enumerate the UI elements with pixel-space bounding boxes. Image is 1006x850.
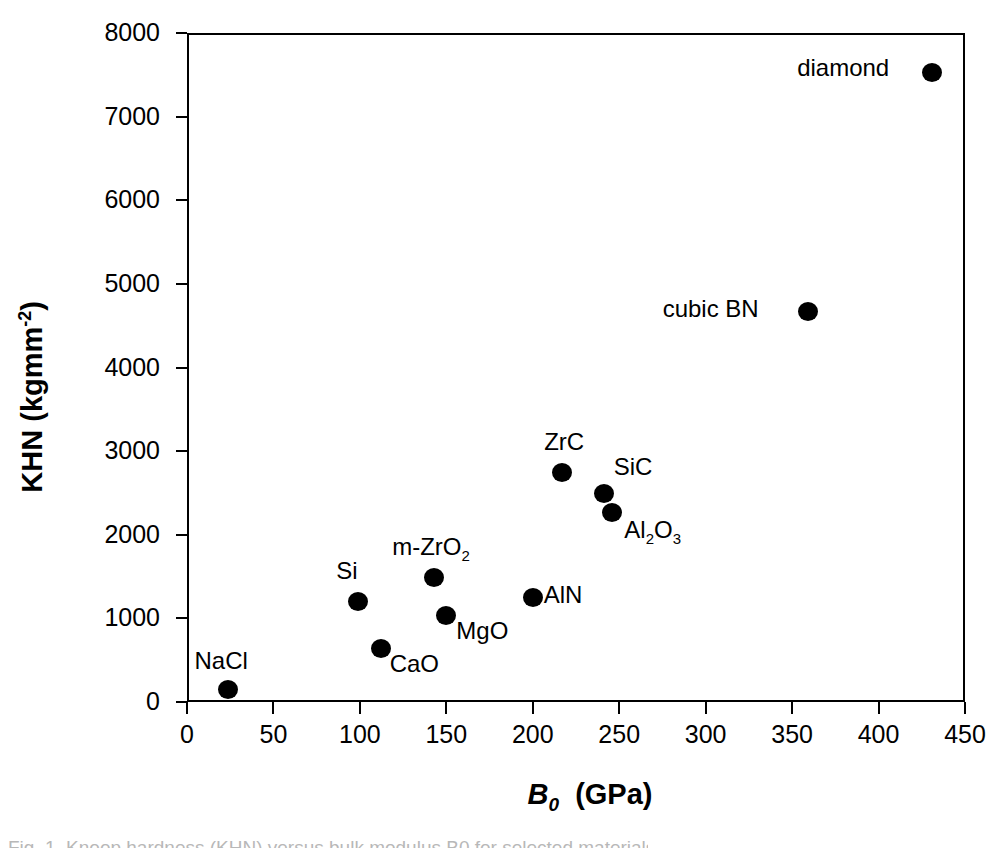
x-axis-title-symbol: B [528,778,549,810]
y-axis-tick-label: 7000 [104,102,160,131]
x-axis-tick: 0 [186,702,188,714]
x-axis-tick-label: 450 [944,720,986,749]
data-point-label: AlN [544,581,583,609]
x-axis-tick-label: 300 [685,720,727,749]
x-axis-title-subscript: 0 [548,794,559,815]
data-point-label: ZrC [544,428,584,456]
y-axis-tick: 1000 [176,617,187,619]
plot-frame-right [963,33,965,702]
data-point-label: m-ZrO2 [392,533,470,564]
data-point-label: NaCl [194,647,247,675]
scatter-chart-figure: KHN (kgmm-2) B0 (GPa) 010002000300040005… [0,0,1006,850]
y-axis-tick-label: 1000 [104,603,160,632]
data-point-label: Si [336,557,357,585]
data-point-label: Al2O3 [624,516,681,547]
y-axis-title-main: KHN (kgmm [16,327,48,493]
y-axis-tick: 6000 [176,199,187,201]
y-axis-tick: 4000 [176,367,187,369]
y-axis-tick-label: 2000 [104,520,160,549]
data-point-marker [348,592,368,611]
data-point-label: MgO [456,617,508,645]
y-axis-line [187,33,189,702]
x-axis-tick: 150 [445,702,447,714]
x-axis-tick-label: 0 [180,720,194,749]
data-point-marker [218,680,238,699]
x-axis-tick-label: 250 [598,720,640,749]
x-axis-title-units: (GPa) [575,778,652,810]
y-axis-tick: 2000 [176,534,187,536]
x-axis-tick: 350 [791,702,793,714]
x-axis-tick-label: 50 [260,720,288,749]
data-point-marker [594,484,614,503]
data-point-marker [922,63,942,82]
y-axis-tick-label: 6000 [104,185,160,214]
y-axis-tick: 3000 [176,450,187,452]
y-axis-title-close-paren: ) [16,301,48,311]
y-axis-tick: 5000 [176,283,187,285]
x-axis-tick-label: 150 [425,720,467,749]
data-point-marker [523,588,543,607]
data-point-label: SiC [614,453,653,481]
y-axis-title: KHN (kgmm-2) [15,232,49,562]
x-axis-title: B0 (GPa) [380,778,800,816]
x-axis-tick: 200 [532,702,534,714]
x-axis-tick: 450 [964,702,966,714]
x-axis-tick-label: 400 [858,720,900,749]
x-axis-tick: 100 [359,702,361,714]
data-point-marker [552,463,572,482]
data-point-label: cubic BN [663,295,759,323]
x-axis-tick: 250 [618,702,620,714]
data-point-marker [436,606,456,625]
data-point-label: CaO [390,650,439,678]
x-axis-tick: 300 [705,702,707,714]
data-point-marker [424,568,444,587]
y-axis-tick-label: 4000 [104,353,160,382]
y-axis-tick-label: 3000 [104,436,160,465]
data-point-marker [371,639,391,658]
x-axis-tick: 400 [878,702,880,714]
plot-area: 010002000300040005000600070008000 050100… [187,33,965,702]
data-point-marker [602,503,622,522]
y-axis-tick-label: 8000 [104,18,160,47]
y-axis-tick: 7000 [176,116,187,118]
x-axis-tick-label: 100 [339,720,381,749]
scan-artifact-text: Fig. 1. Knoop hardness (KHN) versus bulk… [8,838,648,848]
x-axis-tick: 50 [272,702,274,714]
data-point-label: diamond [797,54,889,82]
plot-frame-top [187,33,965,35]
data-point-marker [798,302,818,321]
y-axis-tick-label: 0 [146,687,160,716]
y-axis-tick-label: 5000 [104,269,160,298]
y-axis-title-superscript: -2 [15,311,35,327]
x-axis-line [187,700,965,702]
x-axis-tick-label: 350 [771,720,813,749]
y-axis-tick: 8000 [176,32,187,34]
x-axis-tick-label: 200 [512,720,554,749]
